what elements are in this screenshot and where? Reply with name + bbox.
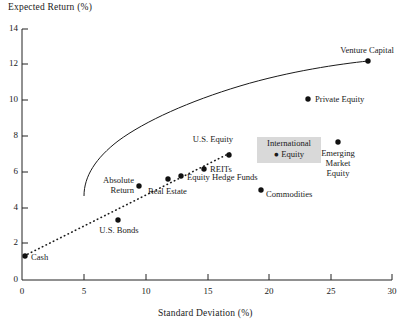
point-emerging-market-equity [335, 139, 340, 144]
point-venture-capital [365, 58, 370, 63]
point-us-equity [226, 152, 231, 157]
y-tick-2: 2 [2, 237, 18, 247]
point-commodities [258, 187, 263, 192]
y-axis-ticks [22, 29, 28, 243]
label-international-line2: Equity [281, 149, 304, 159]
x-tick-15: 15 [198, 286, 218, 296]
y-tick-0: 0 [2, 274, 18, 284]
label-emerging-line2: Market [308, 158, 368, 168]
y-tick-8: 8 [2, 130, 18, 140]
international-equity-point-marker: ● [274, 149, 279, 159]
point-cash [22, 253, 27, 258]
x-axis-ticks [84, 274, 392, 280]
point-us-bonds [115, 217, 120, 222]
y-tick-14: 14 [2, 23, 18, 33]
y-tick-6: 6 [2, 166, 18, 176]
point-real-estate [165, 176, 170, 181]
label-cash: Cash [31, 252, 48, 262]
label-commodities: Commodities [266, 189, 312, 199]
y-tick-12: 12 [2, 58, 18, 68]
y-tick-10: 10 [2, 94, 18, 104]
point-reits [201, 166, 206, 171]
label-us-bonds: U.S. Bonds [88, 225, 150, 235]
label-absolute-return-line2: Return [76, 185, 134, 195]
x-tick-30: 30 [382, 286, 402, 296]
label-absolute-return-line1: Absolute [76, 175, 134, 185]
x-tick-10: 10 [136, 286, 156, 296]
x-tick-20: 20 [259, 286, 279, 296]
label-international-line1: International [267, 138, 311, 148]
point-absolute-return [136, 183, 141, 188]
point-private-equity [305, 96, 310, 101]
label-real-estate: Real Estate [148, 186, 187, 196]
x-tick-25: 25 [321, 286, 341, 296]
y-tick-4: 4 [2, 202, 18, 212]
label-reits: REITs [210, 164, 232, 174]
label-private-equity: Private Equity [315, 94, 364, 104]
label-emerging-line1: Emerging [308, 148, 368, 158]
capital-market-line [24, 152, 232, 256]
x-tick-0: 0 [12, 286, 32, 296]
x-tick-5: 5 [74, 286, 94, 296]
label-us-equity: U.S. Equity [182, 134, 244, 144]
investment-risk-return-chart: Expected Return (%) Standard Deviation (… [0, 0, 405, 328]
label-emerging-line3: Equity [308, 168, 368, 178]
label-venture-capital: Venture Capital [330, 45, 404, 55]
point-equity-hedge-funds [178, 173, 183, 178]
